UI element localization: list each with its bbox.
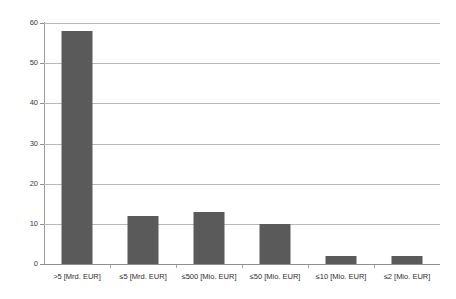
- x-axis-tick-mark: [374, 265, 375, 268]
- x-axis-label: ≤2 [Mio. EUR]: [362, 272, 452, 281]
- bar-slot: [110, 23, 176, 264]
- bar-slot: [308, 23, 374, 264]
- y-axis-tick-label: 30: [12, 140, 38, 148]
- y-axis-tick-label: 50: [12, 59, 38, 67]
- y-axis-tick-label: 10: [12, 220, 38, 228]
- y-axis-tick-label: 0: [12, 260, 38, 268]
- y-axis-tick-mark: [40, 264, 44, 265]
- bar-slot: [242, 23, 308, 264]
- y-axis-tick-label-wrap: 0: [8, 260, 38, 268]
- bar: [260, 224, 291, 264]
- y-axis-tick-label-wrap: 10: [8, 220, 38, 228]
- bar: [392, 256, 423, 264]
- bar: [326, 256, 357, 264]
- y-axis-tick-label-wrap: 30: [8, 140, 38, 148]
- plot-area: [44, 23, 440, 264]
- y-axis-tick-label: 20: [12, 180, 38, 188]
- bar: [128, 216, 159, 264]
- y-axis-tick-label-wrap: 50: [8, 59, 38, 67]
- x-axis-tick-mark: [110, 265, 111, 268]
- x-axis-tick-mark: [176, 265, 177, 268]
- x-axis-tick-mark: [242, 265, 243, 268]
- bar-chart: 0102030405060 >5 [Mrd. EUR]≤5 [Mrd. EUR]…: [0, 0, 456, 299]
- y-axis-tick-label-wrap: 60: [8, 19, 38, 27]
- bar: [194, 212, 225, 264]
- bar-slot: [374, 23, 440, 264]
- y-axis-tick-label: 60: [12, 19, 38, 27]
- y-axis-tick-label-wrap: 40: [8, 99, 38, 107]
- y-axis-tick-label-wrap: 20: [8, 180, 38, 188]
- y-axis-tick-label: 40: [12, 99, 38, 107]
- bar: [62, 31, 93, 264]
- x-axis-tick-mark: [308, 265, 309, 268]
- bar-slot: [44, 23, 110, 264]
- bar-slot: [176, 23, 242, 264]
